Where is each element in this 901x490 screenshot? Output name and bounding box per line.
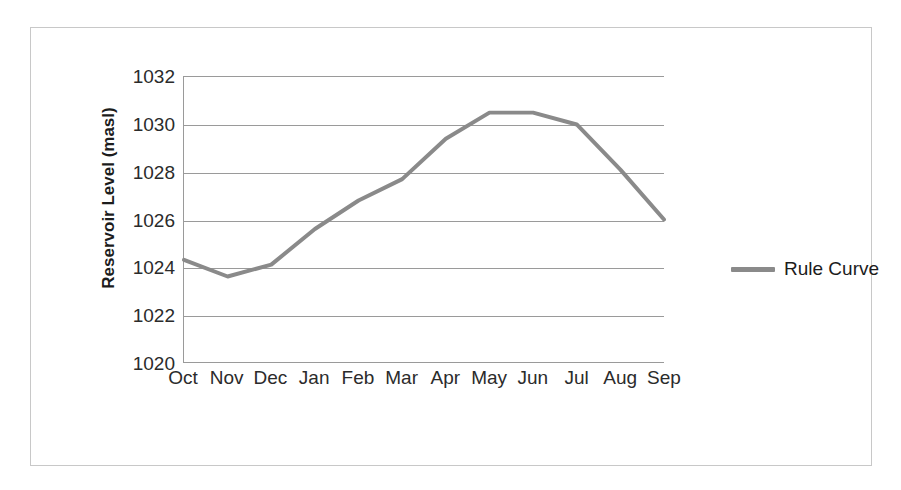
y-tick-label: 1020: [83, 354, 175, 373]
legend: Rule Curve: [731, 258, 879, 280]
x-tick-label: Dec: [254, 368, 288, 387]
y-tick-label: 1030: [83, 114, 175, 133]
x-tick-label: Sep: [647, 368, 681, 387]
y-tick-label: 1032: [83, 67, 175, 86]
x-axis-tick-labels: OctNovDecJanFebMarAprMayJunJulAugSep: [183, 368, 664, 408]
x-tick-label: Aug: [603, 368, 637, 387]
x-tick-label: Feb: [342, 368, 375, 387]
legend-swatch-rule-curve: [731, 267, 775, 272]
y-tick-label: 1026: [83, 210, 175, 229]
x-tick-label: Oct: [168, 368, 198, 387]
chart-figure: Reservoir Level (masl) 10321030102810261…: [0, 0, 901, 490]
chart-frame: Reservoir Level (masl) 10321030102810261…: [30, 27, 872, 466]
y-tick-label: 1022: [83, 306, 175, 325]
x-tick-label: Jul: [564, 368, 588, 387]
plot-area: [183, 76, 664, 363]
x-tick-label: Jan: [299, 368, 330, 387]
x-tick-label: Nov: [210, 368, 244, 387]
x-tick-label: Jun: [517, 368, 548, 387]
y-tick-label: 1028: [83, 162, 175, 181]
y-axis-tick-labels: 1032103010281026102410221020: [75, 76, 175, 363]
x-tick-label: Apr: [431, 368, 461, 387]
x-tick-label: May: [471, 368, 507, 387]
legend-label-rule-curve: Rule Curve: [784, 258, 879, 280]
series-rule-curve-line: [184, 113, 664, 277]
y-tick-label: 1024: [83, 258, 175, 277]
series-rule-curve: [184, 77, 664, 362]
x-tick-label: Mar: [385, 368, 418, 387]
